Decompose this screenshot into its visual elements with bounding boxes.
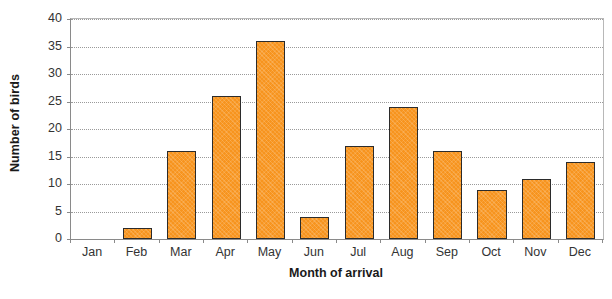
x-axis-tick-mark — [114, 239, 115, 243]
x-axis-tick-label: Jul — [336, 245, 380, 265]
bar-slot — [248, 19, 292, 239]
x-axis-tick-label: Oct — [469, 245, 513, 265]
x-axis-tick-marks — [70, 239, 602, 244]
y-axis-tick-label: 40 — [48, 11, 62, 25]
bar[interactable] — [522, 179, 551, 240]
x-axis-tick-labels: JanFebMarAprMayJunJulAugSepOctNovDec — [70, 245, 602, 265]
x-axis-title: Month of arrival — [70, 266, 602, 280]
x-axis-tick-label: Apr — [203, 245, 247, 265]
y-axis-tick-labels: 0510152025303540 — [30, 12, 66, 244]
y-axis-tick-label: 0 — [55, 231, 62, 245]
bar-slot — [514, 19, 558, 239]
bar-slot — [160, 19, 204, 239]
x-axis-tick-mark — [558, 239, 559, 243]
x-axis-tick-mark — [602, 239, 603, 243]
bar[interactable] — [389, 107, 418, 239]
bar-slot — [426, 19, 470, 239]
x-axis-tick-mark — [513, 239, 514, 243]
y-axis-tick-label: 35 — [48, 39, 62, 53]
y-axis-tick-label: 10 — [48, 176, 62, 190]
bar[interactable] — [123, 228, 152, 239]
bar-slot — [71, 19, 115, 239]
x-axis-tick-label: May — [247, 245, 291, 265]
x-axis-tick-label: Nov — [513, 245, 557, 265]
x-axis-tick-label: Jan — [70, 245, 114, 265]
bar[interactable] — [212, 96, 241, 239]
bar-chart: Number of birds 0510152025303540 JanFebM… — [0, 0, 612, 299]
x-axis-tick-mark — [469, 239, 470, 243]
plot-area — [70, 18, 604, 240]
x-axis-tick-label: Mar — [159, 245, 203, 265]
x-axis-tick-mark — [159, 239, 160, 243]
bar[interactable] — [433, 151, 462, 239]
x-axis-tick-mark — [292, 239, 293, 243]
bar-slot — [293, 19, 337, 239]
x-axis-tick-mark — [336, 239, 337, 243]
y-axis-tick-label: 5 — [55, 204, 62, 218]
x-axis-tick-label: Aug — [380, 245, 424, 265]
x-axis-tick-label: Dec — [558, 245, 602, 265]
x-axis-tick-mark — [70, 239, 71, 243]
bar-slot — [115, 19, 159, 239]
x-axis-tick-mark — [380, 239, 381, 243]
x-axis-tick-label: Feb — [114, 245, 158, 265]
x-axis-tick-mark — [425, 239, 426, 243]
bar[interactable] — [477, 190, 506, 240]
bar[interactable] — [345, 146, 374, 240]
bar-slot — [559, 19, 603, 239]
y-axis-title: Number of birds — [0, 0, 30, 245]
bar[interactable] — [256, 41, 285, 239]
y-axis-title-text: Number of birds — [8, 73, 22, 171]
y-axis-tick-label: 15 — [48, 149, 62, 163]
x-axis-tick-label: Jun — [292, 245, 336, 265]
bar-slot — [204, 19, 248, 239]
x-axis-tick-label: Sep — [425, 245, 469, 265]
bar-slot — [337, 19, 381, 239]
y-axis-tick-label: 20 — [48, 121, 62, 135]
bar[interactable] — [167, 151, 196, 239]
x-axis-tick-mark — [203, 239, 204, 243]
bars-layer — [71, 19, 603, 239]
bar-slot — [381, 19, 425, 239]
bar[interactable] — [300, 217, 329, 239]
bar-slot — [470, 19, 514, 239]
x-axis-tick-mark — [247, 239, 248, 243]
y-axis-tick-label: 30 — [48, 66, 62, 80]
y-axis-tick-label: 25 — [48, 94, 62, 108]
bar[interactable] — [566, 162, 595, 239]
